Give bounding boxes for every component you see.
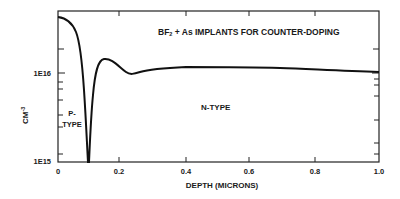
chart: BF2 + As IMPLANTS FOR COUNTER-DOPING 1E1… — [0, 0, 400, 199]
x-axis-label: DEPTH (MICRONS) — [186, 181, 259, 190]
svg-text:0: 0 — [56, 167, 60, 176]
y-ticks-left — [58, 49, 65, 154]
y-ticks-right — [372, 49, 379, 154]
y-tick-label-1e16: 1E16 — [33, 69, 51, 78]
y-tick-label-1e15: 1E15 — [33, 157, 51, 166]
p-type-label-line2: TYPE — [62, 120, 82, 129]
x-tick-labels: 0 0.2 0.4 0.6 0.8 1.0 — [56, 167, 384, 176]
n-type-label: N-TYPE — [201, 103, 231, 112]
p-type-label-line1: P- — [68, 109, 76, 118]
svg-text:1.0: 1.0 — [374, 167, 384, 176]
y-axis-label: CM-3 — [20, 107, 30, 124]
chart-title: BF2 + As IMPLANTS FOR COUNTER-DOPING — [158, 27, 340, 37]
svg-text:0.8: 0.8 — [310, 167, 320, 176]
svg-text:0.2: 0.2 — [114, 167, 124, 176]
svg-text:0.4: 0.4 — [181, 167, 192, 176]
doping-profile-curve — [58, 17, 379, 162]
svg-text:0.6: 0.6 — [244, 167, 254, 176]
